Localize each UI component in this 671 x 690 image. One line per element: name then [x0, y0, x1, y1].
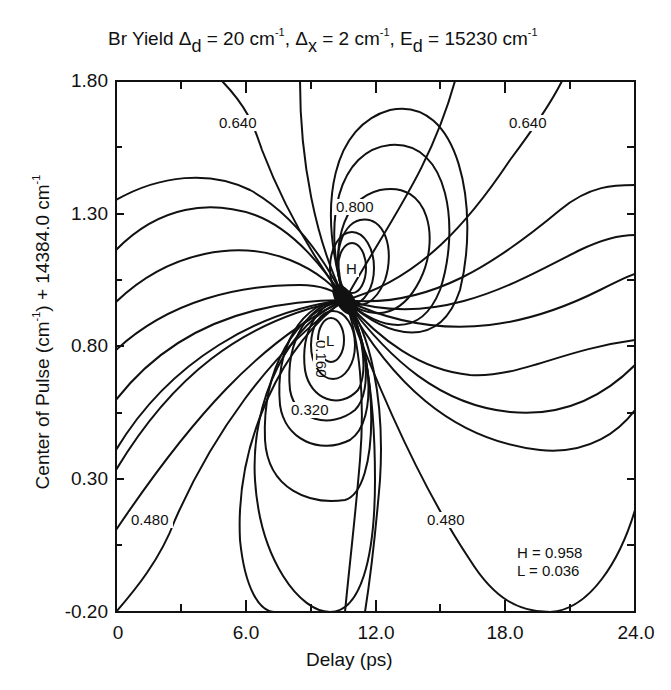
maximum-marker-h: H [346, 260, 357, 277]
x-tick-label: 12.0 [336, 622, 416, 644]
x-axis-label: Delay (ps) [306, 649, 393, 671]
contour-lines [116, 81, 635, 612]
y-tick-label: 0.30 [71, 468, 108, 490]
legend-l-value: L = 0.036 [517, 562, 582, 580]
extrema-legend: H = 0.958 L = 0.036 [517, 544, 582, 580]
x-tick-label: 24.0 [596, 622, 671, 644]
contour-label: 0.480 [131, 511, 169, 528]
y-tick-label: 0.80 [71, 335, 108, 357]
y-tick-label: -0.20 [65, 601, 108, 623]
y-axis-label: Center of Pulse (cm-1) + 14384.0 cm-1 [30, 122, 54, 542]
contour-label: 0.480 [427, 511, 465, 528]
minimum-marker-l: L [326, 332, 334, 349]
y-tick-label: 1.30 [71, 203, 108, 225]
contour-label: 0.640 [219, 114, 257, 131]
contour-labels: 0.640 0.640 0.800 0.160 0.320 0.480 0.48… [129, 114, 551, 528]
y-tick-label: 1.80 [71, 70, 108, 92]
legend-h-value: H = 0.958 [517, 544, 582, 562]
x-tick-label: 6.0 [206, 622, 286, 644]
contour-label: 0.640 [509, 114, 547, 131]
x-tick-label: 18.0 [465, 622, 545, 644]
contour-label: 0.320 [291, 401, 329, 418]
x-tick-label: 0 [78, 622, 158, 644]
contour-label: 0.800 [336, 198, 374, 215]
